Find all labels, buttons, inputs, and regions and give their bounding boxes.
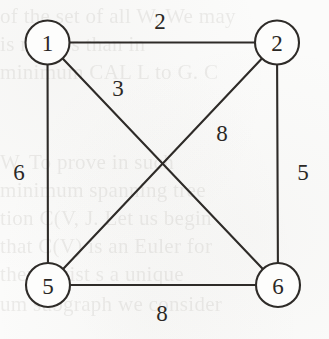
graph-edge-2-6 bbox=[277, 64, 278, 263]
edges-group bbox=[48, 43, 278, 286]
graph-node-label-2: 2 bbox=[271, 31, 283, 56]
edge-weight-1-2: 2 bbox=[154, 9, 166, 34]
weighted-graph-diagram: 1256 263858 bbox=[0, 0, 329, 339]
graph-node-label-6: 6 bbox=[272, 274, 284, 299]
edge-weight-2-5: 8 bbox=[216, 121, 228, 146]
figure-canvas: of the set of all W. We mayis no less th… bbox=[0, 0, 329, 339]
graph-node-label-5: 5 bbox=[42, 274, 54, 299]
edge-weight-1-5: 6 bbox=[13, 160, 25, 185]
graph-node-label-1: 1 bbox=[42, 31, 54, 56]
edge-weight-5-6: 8 bbox=[156, 301, 168, 326]
edge-weight-2-6: 5 bbox=[297, 160, 309, 185]
edge-weight-1-6: 3 bbox=[112, 76, 124, 101]
